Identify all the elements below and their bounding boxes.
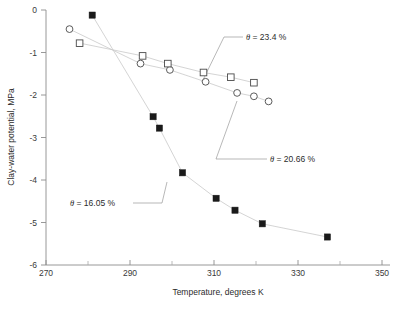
data-point-open-circle (234, 90, 241, 97)
series-markers-16-05 (89, 12, 330, 240)
y-tick-label-minus2: -2 (29, 90, 37, 100)
data-point-filled-square (232, 207, 238, 213)
y-tick-label-minus3: -3 (29, 133, 37, 143)
data-point-open-square (251, 79, 258, 86)
x-tick-label-330: 330 (291, 268, 305, 278)
plot-canvas: 0 -1 -2 -3 -4 -5 -6 270 290 310 330 350 (0, 0, 397, 309)
annotation-value-16-05: = 16.05 % (74, 198, 115, 208)
data-point-open-square (76, 40, 83, 47)
data-point-filled-square (89, 12, 95, 18)
data-point-open-square (139, 53, 146, 60)
leader-line-16-05 (133, 182, 167, 203)
data-point-open-circle (66, 26, 73, 33)
data-point-filled-square (213, 195, 219, 201)
data-point-filled-square (324, 234, 330, 240)
y-tick-label-minus6: -6 (29, 260, 37, 270)
y-axis-ticks (41, 10, 46, 265)
data-point-open-square (228, 74, 235, 81)
x-tick-label-350: 350 (375, 268, 389, 278)
axes-group (46, 10, 390, 265)
y-tick-label-0: 0 (32, 5, 37, 15)
data-point-open-square (165, 60, 172, 67)
y-tick-label-minus5: -5 (29, 218, 37, 228)
data-point-filled-square (179, 170, 185, 176)
data-point-open-circle (167, 67, 174, 74)
data-point-open-circle (202, 78, 209, 85)
x-tick-label-290: 290 (123, 268, 137, 278)
y-axis-tick-labels: 0 -1 -2 -3 -4 -5 -6 (29, 5, 37, 270)
x-tick-label-270: 270 (39, 268, 53, 278)
x-axis-tick-labels: 270 290 310 330 350 (39, 268, 389, 278)
y-tick-label-minus4: -4 (29, 175, 37, 185)
annotation-label-23-4: θ = 23.4 % (246, 32, 287, 42)
series-markers-23-4 (76, 40, 257, 86)
x-axis-ticks (46, 260, 382, 265)
annotation-label-16-05: θ = 16.05 % (70, 198, 116, 208)
leader-line-23-4 (202, 37, 243, 82)
data-point-open-circle (137, 60, 144, 67)
y-tick-label-minus1: -1 (29, 48, 37, 58)
data-point-open-circle (265, 98, 272, 105)
data-point-open-square (200, 69, 207, 76)
leader-line-20-66 (216, 101, 267, 159)
y-axis-title: Clay-water potential, MPa (6, 88, 16, 186)
clay-water-potential-chart: 0 -1 -2 -3 -4 -5 -6 270 290 310 330 350 (0, 0, 397, 309)
series-line-16-05 (92, 15, 327, 237)
data-point-filled-square (259, 221, 265, 227)
x-axis-title: Temperature, degrees K (172, 287, 264, 297)
data-point-filled-square (150, 114, 156, 120)
annotation-value-23-4: = 23.4 % (250, 32, 287, 42)
annotation-label-20-66: θ = 20.66 % (270, 154, 316, 164)
annotation-value-20-66: = 20.66 % (274, 154, 315, 164)
x-tick-label-310: 310 (207, 268, 221, 278)
data-point-open-circle (251, 93, 258, 100)
data-point-filled-square (156, 125, 162, 131)
